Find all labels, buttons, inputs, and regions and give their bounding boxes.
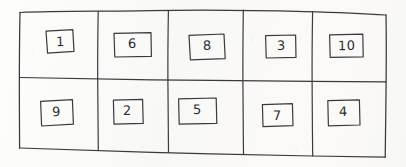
frame-right-edge bbox=[385, 15, 386, 157]
grid-row-divider bbox=[20, 78, 386, 82]
cell-label-r1c3: 8 bbox=[203, 38, 212, 53]
cell-label-r1c1: 1 bbox=[56, 33, 65, 48]
column-divider-2 bbox=[168, 11, 169, 153]
grid-column-dividers bbox=[98, 10, 313, 156]
cell-label-r2c2: 2 bbox=[123, 103, 132, 118]
grid-outer-frame bbox=[19, 10, 386, 157]
hand-drawn-grid bbox=[0, 0, 406, 167]
sketch-page: 1 6 8 3 10 9 2 5 7 4 bbox=[0, 0, 406, 167]
cell-label-r1c2: 6 bbox=[128, 36, 137, 51]
frame-top-edge bbox=[20, 10, 386, 15]
cell-label-r2c1: 9 bbox=[52, 104, 61, 119]
column-divider-4 bbox=[312, 12, 313, 156]
cell-label-r1c4: 3 bbox=[277, 38, 286, 53]
cell-label-r2c5: 4 bbox=[339, 103, 348, 118]
cell-label-r1c5: 10 bbox=[338, 37, 356, 52]
column-divider-1 bbox=[98, 11, 99, 150]
frame-left-edge bbox=[19, 13, 20, 149]
column-divider-3 bbox=[243, 10, 244, 154]
cell-label-r2c4: 7 bbox=[273, 107, 282, 122]
cell-label-r2c3: 5 bbox=[193, 101, 202, 116]
frame-bottom-edge bbox=[20, 148, 386, 157]
